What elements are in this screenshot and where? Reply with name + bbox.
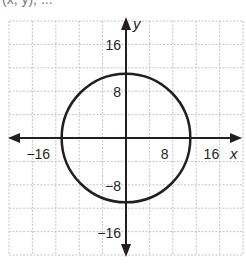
y-axis-label: y <box>133 16 141 31</box>
y-axis-up-arrow-icon <box>121 17 131 30</box>
x-axis-label: x <box>230 146 238 161</box>
x-axis-right-arrow-icon <box>230 133 242 143</box>
x-tick-label: 8 <box>161 147 169 161</box>
x-axis-left-arrow-icon <box>8 133 20 143</box>
x-tick-label: 16 <box>204 147 220 161</box>
x-tick-label: −16 <box>26 147 50 161</box>
coordinate-plane <box>0 0 246 271</box>
y-tick-label: 16 <box>105 38 121 52</box>
y-tick-label: −8 <box>105 179 121 193</box>
y-tick-label: 8 <box>113 85 121 99</box>
y-tick-label: −16 <box>97 226 121 240</box>
